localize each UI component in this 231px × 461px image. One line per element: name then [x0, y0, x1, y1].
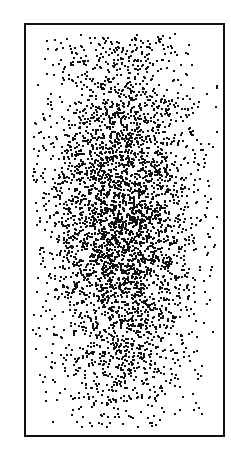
scatter-plot-frame: [24, 23, 225, 437]
scatter-plot-canvas: [26, 25, 223, 435]
